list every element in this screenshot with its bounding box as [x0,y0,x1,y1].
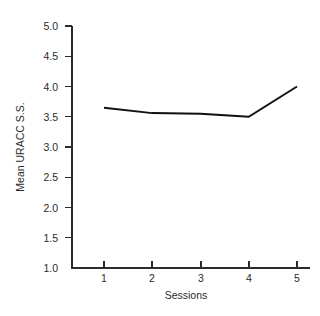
axis-spines [72,26,310,268]
x-tick-label-5: 5 [294,272,300,284]
chart-figure: 5.0 4.5 4.0 3.5 3.0 2.5 2.0 1.5 1.0 1 2 … [0,0,320,316]
x-tick-label-2: 2 [149,272,155,284]
data-series-line [104,87,297,117]
y-axis-title: Mean URACC S.S. [14,102,26,191]
y-tick-label-1.0: 1.0 [43,262,58,274]
line-chart: 5.0 4.5 4.0 3.5 3.0 2.5 2.0 1.5 1.0 1 2 … [0,0,320,316]
y-tick-label-1.5: 1.5 [43,232,58,244]
x-tick-label-1: 1 [101,272,107,284]
x-axis-title: Sessions [165,289,208,301]
y-tick-label-3.0: 3.0 [43,141,58,153]
y-tick-label-4.5: 4.5 [43,50,58,62]
x-tick-label-4: 4 [246,272,252,284]
y-tick-label-4.0: 4.0 [43,81,58,93]
x-tick-label-3: 3 [198,272,204,284]
y-tick-label-3.5: 3.5 [43,111,58,123]
y-tick-label-2.0: 2.0 [43,202,58,214]
y-tick-label-2.5: 2.5 [43,171,58,183]
y-tick-label-5.0: 5.0 [43,20,58,32]
